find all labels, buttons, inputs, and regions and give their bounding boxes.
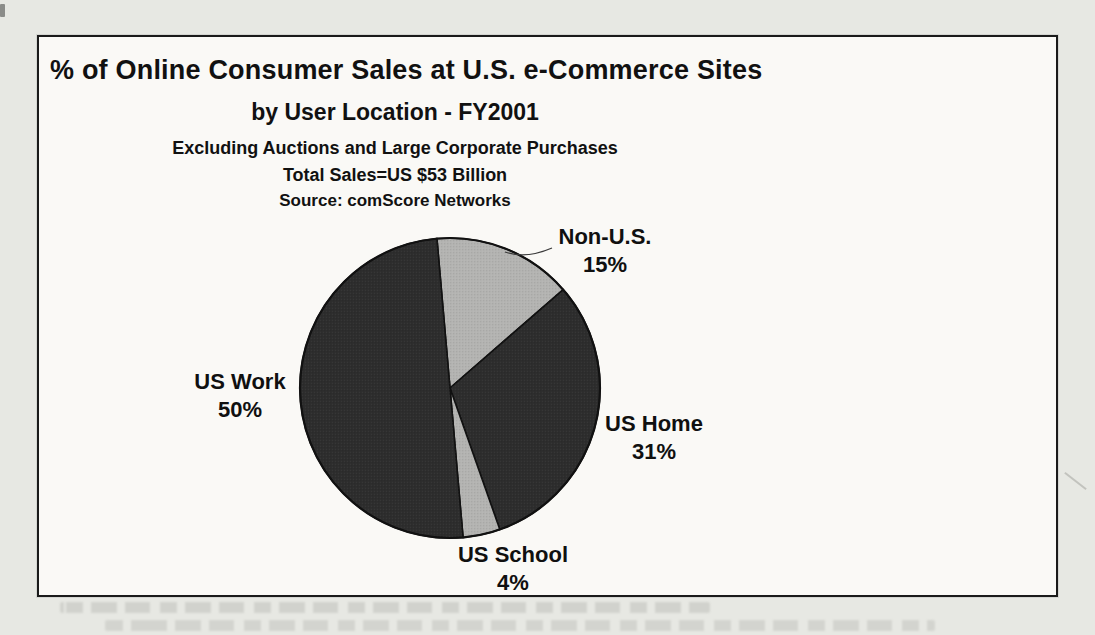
pie-label-us-school: US School 4% — [433, 541, 593, 597]
scan-edge-mark — [0, 4, 5, 17]
pie-label-non-us: Non-U.S. 15% — [525, 223, 685, 279]
scanned-page: % of Online Consumer Sales at U.S. e-Com… — [0, 0, 1095, 635]
pie-label-non-us-name: Non-U.S. — [525, 223, 685, 251]
pie-label-us-work: US Work 50% — [160, 368, 320, 424]
pie-label-us-school-value: 4% — [433, 569, 593, 597]
chart-note-total-sales: Total Sales=US $53 Billion — [39, 164, 751, 186]
scan-scratch-mark — [1064, 472, 1087, 490]
bleed-through-text — [105, 620, 935, 631]
pie-label-non-us-value: 15% — [525, 251, 685, 279]
chart-title-line1: % of Online Consumer Sales at U.S. e-Com… — [50, 55, 762, 85]
pie-label-us-home: US Home 31% — [574, 410, 734, 466]
pie-label-us-home-value: 31% — [574, 438, 734, 466]
pie-label-us-home-name: US Home — [574, 410, 734, 438]
bleed-through-text — [60, 602, 710, 613]
pie-label-us-work-name: US Work — [160, 368, 320, 396]
pie-label-us-work-value: 50% — [160, 396, 320, 424]
pie-label-us-school-name: US School — [433, 541, 593, 569]
chart-title-line2: by User Location - FY2001 — [39, 98, 751, 126]
chart-source: Source: comScore Networks — [39, 190, 751, 211]
chart-note-exclusions: Excluding Auctions and Large Corporate P… — [39, 137, 751, 159]
